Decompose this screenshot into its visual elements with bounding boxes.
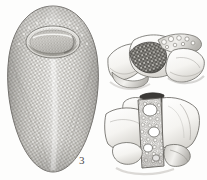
figure-4-lower-view (105, 93, 200, 174)
figure-3-rim-texture (18, 19, 88, 45)
figure-4-drawing (104, 6, 206, 178)
figure-4-upper-view (108, 34, 204, 89)
figure-3-aperture (24, 26, 82, 60)
figure-3-drawing (4, 4, 102, 176)
figure-3: 3 (4, 4, 102, 176)
figure-3-body (4, 4, 102, 176)
illustration-plate: 3 (0, 0, 207, 180)
figure-3-label: 3 (79, 155, 85, 166)
figure-4: 4 (104, 6, 206, 178)
